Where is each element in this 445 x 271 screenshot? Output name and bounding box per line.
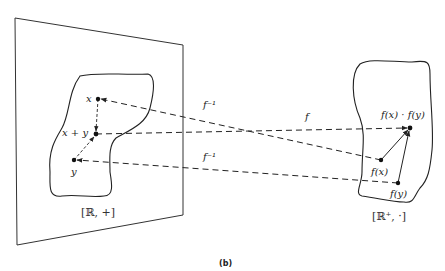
label-x-plus-y: x + y xyxy=(62,127,88,138)
figure-caption: (b) xyxy=(219,259,232,268)
left-set-label: [ℝ, +] xyxy=(81,206,115,219)
right-set-label: [ℝ⁺, ·] xyxy=(372,210,406,223)
label-fx-fy: f(x) · f(y) xyxy=(380,109,425,120)
label-f-inverse-bottom: f⁻¹ xyxy=(202,151,216,162)
isomorphism-diagram: x x + y y [ℝ, +] f⁻¹ f f⁻¹ f(x) · f(y) f… xyxy=(0,0,445,271)
point-y xyxy=(72,158,76,162)
x-to-sum-arrow xyxy=(96,99,98,131)
label-x: x xyxy=(86,93,92,104)
point-x-plus-y xyxy=(94,132,99,137)
point-x xyxy=(96,97,100,101)
point-fy xyxy=(396,181,400,185)
point-fx xyxy=(379,158,383,162)
f-inverse-arrow-bottom xyxy=(77,160,398,183)
label-y: y xyxy=(70,166,77,177)
f-arrow xyxy=(96,128,407,134)
label-f: f xyxy=(304,111,311,122)
y-to-sum-arrow xyxy=(74,137,94,160)
label-f-inverse-top: f⁻¹ xyxy=(202,99,216,110)
label-fx: f(x) xyxy=(370,166,388,177)
point-fx-fy xyxy=(408,126,413,131)
label-fy: f(y) xyxy=(389,188,407,199)
